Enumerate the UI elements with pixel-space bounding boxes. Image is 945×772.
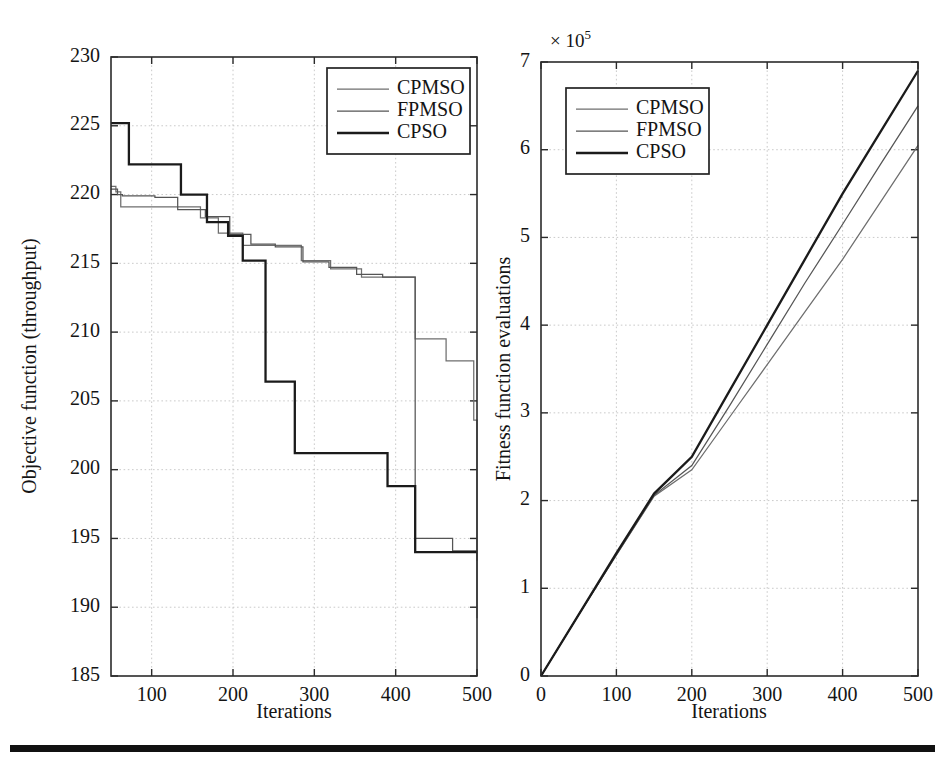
- left-y-tick-185: 185: [70, 663, 100, 685]
- right-x-tick-100: 100: [601, 683, 631, 705]
- figure-container: 185190195200205210215220225230 100200300…: [0, 0, 945, 772]
- left-y-tick-215: 215: [70, 250, 100, 272]
- right-y-axis-title: Fitness function evaluations: [492, 257, 514, 482]
- left-x-tick-400: 400: [381, 683, 411, 705]
- left-legend-label-cpso: CPSO: [397, 120, 447, 142]
- objective-function-panel: 185190195200205210215220225230 100200300…: [0, 0, 492, 735]
- right-legend-label-cpmso: CPMSO: [636, 96, 704, 118]
- left-y-tick-225: 225: [70, 112, 100, 134]
- right-x-tick-400: 400: [828, 683, 858, 705]
- right-legend-label-fpmso: FPMSO: [636, 118, 702, 140]
- right-y-tick-3: 3: [520, 399, 530, 421]
- left-y-tick-210: 210: [70, 319, 100, 341]
- left-x-axis-title: Iterations: [256, 700, 332, 722]
- right-y-tick-4: 4: [520, 312, 530, 334]
- left-y-tick-220: 220: [70, 181, 100, 203]
- left-y-tick-190: 190: [70, 594, 100, 616]
- left-legend-label-cpmso: CPMSO: [397, 76, 465, 98]
- right-y-tick-labels: 01234567: [520, 49, 530, 685]
- left-x-tick-500: 500: [462, 683, 492, 705]
- left-chart-svg: 185190195200205210215220225230 100200300…: [0, 0, 492, 735]
- right-y-tick-1: 1: [520, 575, 530, 597]
- right-y-tick-6: 6: [520, 136, 530, 158]
- right-x-tick-0: 0: [536, 683, 546, 705]
- right-y-tick-0: 0: [520, 663, 530, 685]
- left-y-tick-205: 205: [70, 387, 100, 409]
- left-y-tick-195: 195: [70, 525, 100, 547]
- left-series-group: [111, 123, 477, 618]
- left-line-cpso: [111, 123, 477, 552]
- right-y-exponent: × 105: [550, 27, 591, 51]
- bottom-divider-rule: [10, 745, 935, 752]
- right-y-tick-2: 2: [520, 487, 530, 509]
- right-x-tick-500: 500: [903, 683, 933, 705]
- left-legend-label-fpmso: FPMSO: [397, 98, 463, 120]
- left-x-tick-200: 200: [218, 683, 248, 705]
- left-y-tick-labels: 185190195200205210215220225230: [70, 44, 100, 685]
- right-legend: CPMSO FPMSO CPSO: [566, 88, 709, 174]
- left-y-tick-230: 230: [70, 44, 100, 66]
- fitness-evaluations-panel: 01234567 0100200300400500 × 105 Iteratio…: [492, 0, 945, 735]
- left-legend: CPMSO FPMSO CPSO: [327, 68, 470, 154]
- right-y-tick-7: 7: [520, 49, 530, 71]
- left-x-tick-100: 100: [137, 683, 167, 705]
- right-legend-label-cpso: CPSO: [636, 140, 686, 162]
- left-line-fpmso: [111, 189, 477, 560]
- right-x-axis-title: Iterations: [691, 700, 767, 722]
- right-line-cpmso: [541, 145, 918, 676]
- left-y-axis-title: Objective function (throughput): [18, 238, 41, 494]
- left-y-tick-200: 200: [70, 456, 100, 478]
- right-y-tick-5: 5: [520, 224, 530, 246]
- right-chart-svg: 01234567 0100200300400500 × 105 Iteratio…: [492, 0, 945, 735]
